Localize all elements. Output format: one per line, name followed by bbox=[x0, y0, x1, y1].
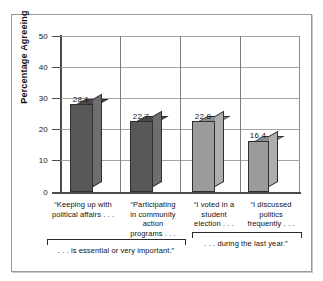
category-label-3-line-1: “I voted in a bbox=[183, 200, 245, 210]
bar-3-front-face bbox=[192, 121, 215, 192]
category-label-2-line-2: in community bbox=[122, 210, 184, 220]
y-tick-mark-10 bbox=[52, 160, 60, 161]
bar-2-value-label: 22.7 bbox=[121, 112, 161, 121]
y-tick-label-10: 10 bbox=[30, 156, 48, 165]
category-label-3: “I voted in a student election . . . bbox=[183, 200, 245, 229]
group-caption-1: . . . is essential or very important.” bbox=[46, 246, 186, 255]
category-label-1-line-2: political affairs . . . bbox=[44, 210, 122, 220]
category-separator-2 bbox=[180, 36, 181, 192]
y-tick-label-50: 50 bbox=[30, 32, 48, 41]
bar-4-value-label: 16.4 bbox=[238, 131, 278, 140]
category-label-2-line-4: programs . . . bbox=[122, 229, 184, 239]
group-caption-2: . . . during the last year.” bbox=[190, 239, 302, 248]
plot-area bbox=[61, 36, 300, 192]
category-label-1: “Keeping up with political affairs . . . bbox=[44, 200, 122, 219]
category-label-1-line-1: “Keeping up with bbox=[44, 200, 122, 210]
bar-4 bbox=[248, 141, 269, 192]
bar-3-value-label: 22.8 bbox=[183, 112, 223, 121]
bar-3 bbox=[192, 121, 215, 192]
y-tick-mark-20 bbox=[52, 129, 60, 130]
bar-1-value-label: 28.1 bbox=[61, 95, 101, 104]
y-tick-label-40: 40 bbox=[30, 63, 48, 72]
category-label-3-line-2: student bbox=[183, 210, 245, 220]
bar-2 bbox=[130, 121, 153, 192]
category-label-4-line-1: “I discussed bbox=[240, 200, 302, 210]
category-label-4-line-2: politics bbox=[240, 210, 302, 220]
bar-1 bbox=[70, 104, 93, 192]
bar-3-side-face bbox=[215, 111, 224, 187]
category-label-4: “I discussed politics frequently . . . bbox=[240, 200, 302, 229]
x-axis-line bbox=[52, 192, 301, 194]
chart-figure: Percentage Agreeing 50 40 30 20 10 0 bbox=[0, 0, 323, 281]
y-tick-mark-40 bbox=[52, 67, 60, 68]
bar-2-side-face bbox=[153, 111, 162, 187]
bar-4-front-face bbox=[248, 141, 269, 192]
category-label-4-line-3: frequently . . . bbox=[240, 219, 302, 229]
bar-1-side-face bbox=[93, 94, 102, 187]
y-tick-mark-30 bbox=[52, 98, 60, 99]
category-label-2-line-3: action bbox=[122, 219, 184, 229]
y-tick-label-20: 20 bbox=[30, 125, 48, 134]
group-bracket-2 bbox=[192, 232, 302, 238]
bar-2-front-face bbox=[130, 121, 153, 192]
y-tick-mark-50 bbox=[52, 36, 60, 37]
y-tick-label-0: 0 bbox=[30, 188, 48, 197]
category-label-2-line-1: “Participating bbox=[122, 200, 184, 210]
bar-1-front-face bbox=[70, 104, 93, 192]
y-tick-label-30: 30 bbox=[30, 94, 48, 103]
category-label-2: “Participating in community action progr… bbox=[122, 200, 184, 238]
y-axis-title: Percentage Agreeing bbox=[19, 0, 29, 117]
category-separator-3 bbox=[240, 36, 241, 192]
category-label-3-line-3: election . . . bbox=[183, 219, 245, 229]
group-bracket-1 bbox=[47, 239, 186, 245]
